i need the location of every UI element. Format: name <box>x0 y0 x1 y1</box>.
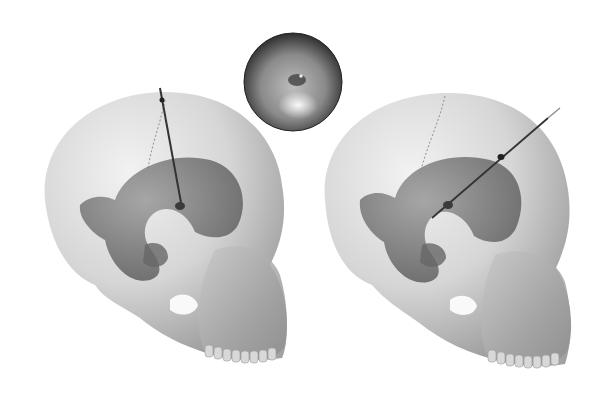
right-skull <box>325 93 571 368</box>
left-skull <box>45 88 287 363</box>
endoscopic-view-inset <box>244 33 342 131</box>
medical-illustration <box>0 0 611 401</box>
